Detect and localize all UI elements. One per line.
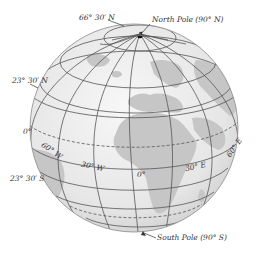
- arctic-circle-label: 66° 30′ N: [79, 14, 115, 22]
- south-pole-label: South Pole (90° S): [157, 234, 227, 242]
- tropic-capricorn-label: 23° 30′ S: [10, 175, 44, 183]
- north-pole-label: North Pole (90° N): [152, 16, 223, 24]
- globe-diagram: 66° 30′ N North Pole (90° N) 23° 30′ N 0…: [0, 0, 258, 254]
- globe-graphic: [0, 0, 258, 254]
- north-pole-marker: [138, 36, 143, 38]
- tropic-cancer-label: 23° 30′ N: [12, 77, 48, 85]
- longitude-0-label: 0°: [137, 171, 146, 179]
- equator-label: 0°: [23, 128, 32, 136]
- south-pole-leader: [144, 233, 156, 238]
